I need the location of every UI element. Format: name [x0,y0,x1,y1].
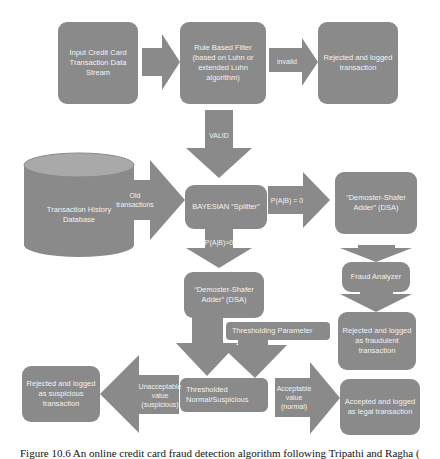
edge-label-old-transactions: Old transactions [118,188,152,212]
edge-label-p-positive: P(A|B)>0 [203,236,235,248]
node-rejected-logged-label: Rejected and logged transaction [321,53,395,73]
node-fraud-analyzer: Fraud Analyzer [342,262,410,292]
arrow-param-to-threshold [220,336,287,378]
node-history-db-label: Transaction History Database [30,205,128,225]
node-rejected-suspicious: Rejected and logged as suspicious transa… [22,366,100,422]
node-accepted-legal: Accepted and logged as legal transaction [340,379,420,435]
node-rule-filter-label: Rule Based Filter (based on Luhn or exte… [183,43,263,83]
node-bayesian-splitter-label: BAYESIAN “Splitter” [192,202,259,212]
node-input-stream: Input Credit Card Transaction Data Strea… [58,22,138,104]
arrow-p-positive [186,228,252,268]
node-dsa-center-label: “Demoster-Shafer Adder” (DSA) [187,285,261,305]
node-rule-filter: Rule Based Filter (based on Luhn or exte… [180,22,266,104]
edge-label-valid: VALID [205,128,233,142]
edge-label-invalid: invalid [272,52,302,70]
node-thresholded-label: Thresholded Normal/Suspicious [186,385,265,405]
arrow-valid [186,110,252,178]
arrow-dsa-to-fraud [340,245,412,262]
node-dsa-center: “Demoster-Shafer Adder” (DSA) [184,272,264,318]
node-input-stream-label: Input Credit Card Transaction Data Strea… [61,48,135,78]
node-rejected-fraudulent: Rejected and logged as fraudulent transa… [338,312,416,370]
node-rejected-fraudulent-label: Rejected and logged as fraudulent transa… [341,326,413,356]
node-bayesian-splitter: BAYESIAN “Splitter” [185,185,267,229]
edge-label-unacceptable: Unacceptable value (suspicious) [139,378,181,412]
figure-caption: Figure 10.6 An online credit card fraud … [20,447,420,459]
arrow-input-to-filter [142,34,180,90]
node-fraud-analyzer-label: Fraud Analyzer [351,272,401,282]
node-thresholding-parameter-label: Thresholding Parameter [232,326,312,336]
node-accepted-legal-label: Accepted and logged as legal transaction [343,397,417,417]
node-dsa-right-label: “Demoster-Shafer Adder” (DSA) [338,193,414,213]
node-thresholding-parameter: Thresholding Parameter [226,322,330,340]
node-dsa-right: “Demoster-Shafer Adder” (DSA) [335,172,417,234]
edge-label-acceptable: Acceptable value (normal) [276,380,312,414]
node-thresholded: Thresholded Normal/Suspicious [180,378,268,412]
node-rejected-logged: Rejected and logged transaction [318,22,398,104]
edge-label-p-zero: P(A|B) = 0 [268,192,306,208]
node-rejected-suspicious-label: Rejected and logged as suspicious transa… [25,379,97,409]
